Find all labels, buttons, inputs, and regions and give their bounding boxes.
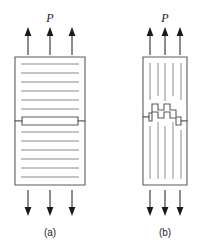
bottom-arrows-a: [25, 190, 76, 216]
panel-caption-b: (b): [159, 227, 171, 238]
arrow-down: [162, 190, 169, 216]
arrow-head-icon: [25, 207, 32, 216]
arrow-head-icon: [147, 207, 154, 216]
arrow-head-icon: [69, 27, 76, 36]
arrow-up: [162, 27, 169, 55]
arrow-head-icon: [162, 207, 169, 216]
arrow-up: [147, 27, 154, 55]
arrow-head-icon: [177, 207, 184, 216]
arrow-head-icon: [147, 27, 154, 36]
arrow-head-icon: [69, 207, 76, 216]
fracture-modes-figure: P: [0, 0, 212, 246]
arrow-up: [25, 27, 32, 55]
arrow-down: [177, 190, 184, 216]
arrow-head-icon: [162, 27, 169, 36]
arrow-head-icon: [25, 27, 32, 36]
top-arrows-a: [25, 27, 76, 55]
specimen-upper-half-a: [15, 57, 85, 121]
panel-a: P: [15, 11, 85, 238]
top-arrows-b: [147, 27, 184, 55]
arrow-up: [47, 27, 54, 55]
load-label-a: P: [45, 11, 54, 25]
specimen-lower-half-a: [15, 121, 85, 185]
arrow-down: [25, 190, 32, 216]
arrow-head-icon: [177, 27, 184, 36]
arrow-up: [177, 27, 184, 55]
panel-b: P: [143, 11, 187, 238]
arrow-head-icon: [47, 27, 54, 36]
arrow-down: [69, 190, 76, 216]
load-label-b: P: [160, 11, 169, 25]
arrow-head-icon: [47, 207, 54, 216]
bottom-arrows-b: [147, 190, 184, 216]
arrow-up: [69, 27, 76, 55]
figure-canvas: P: [0, 0, 212, 246]
arrow-down: [47, 190, 54, 216]
arrow-down: [147, 190, 154, 216]
panel-caption-a: (a): [44, 227, 56, 238]
